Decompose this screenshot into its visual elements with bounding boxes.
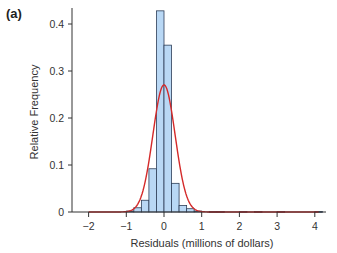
y-tick-label: 0.4 [49,18,64,30]
histogram-bar [179,205,187,212]
histogram-bar [172,183,180,212]
y-tick-label: 0.1 [49,159,64,171]
histogram-bar [164,45,172,212]
y-tick-label: 0 [58,206,64,218]
y-tick-label: 0.2 [49,112,64,124]
x-tick-label: −2 [83,220,95,232]
normal-curve [89,85,319,212]
x-tick-label: −1 [120,220,132,232]
x-tick-label: 2 [236,220,242,232]
histogram-bar [149,169,157,212]
x-tick-label: 1 [199,220,205,232]
x-tick-label: 3 [274,220,280,232]
x-tick-label: 0 [161,220,167,232]
y-tick-label: 0.3 [49,65,64,77]
histogram-chart: 00.10.20.30.4−2−101234 Residuals (millio… [0,0,337,253]
x-axis-title: Residuals (millions of dollars) [130,237,273,249]
y-axis-title: Relative Frequency [28,64,40,159]
x-tick-label: 4 [312,220,318,232]
histogram-bar [141,200,149,212]
histogram-bar [156,11,164,212]
